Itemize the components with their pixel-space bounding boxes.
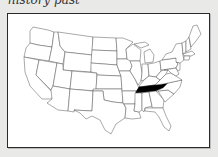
state-wyoming: [63, 52, 92, 72]
state-maine: [189, 25, 201, 47]
state-colorado: [70, 71, 97, 91]
state-south-dakota: [91, 50, 117, 65]
us-map: [8, 14, 209, 147]
state-florida: [145, 108, 171, 131]
caption-text: history past: [8, 0, 80, 7]
state-new-mexico: [68, 89, 93, 112]
state-arkansas: [122, 91, 136, 104]
map-frame: [7, 13, 210, 148]
state-kansas: [96, 75, 122, 89]
state-north-dakota: [92, 37, 117, 51]
state-mississippi: [134, 93, 142, 112]
state-connecticut: [184, 56, 190, 60]
state-vermont: [182, 41, 186, 54]
